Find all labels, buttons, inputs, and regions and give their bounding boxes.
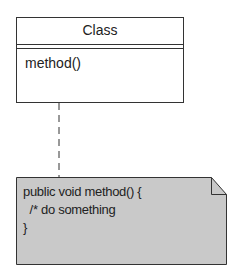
note-line: } [23,219,141,237]
note-text: public void method() { /* do something} [23,183,141,237]
note-line: public void method() { [23,183,141,201]
note-line: /* do something [23,201,141,219]
